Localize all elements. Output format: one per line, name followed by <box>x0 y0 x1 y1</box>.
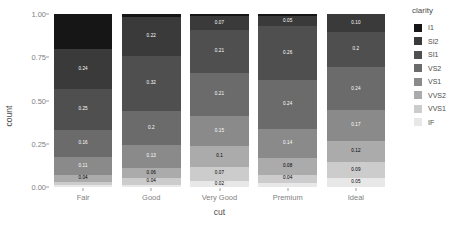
legend-item-vs1[interactable]: VS1 <box>398 75 460 89</box>
bar-segment-si2[interactable]: 0.07 <box>190 16 249 30</box>
x-tick-label: Good <box>142 193 160 202</box>
segment-value-label: 0.1 <box>216 154 223 159</box>
bar-segment-vvs1[interactable]: 0.09 <box>327 162 386 178</box>
legend-label: VVS2 <box>428 92 446 99</box>
bar-segment-if[interactable]: 0.05 <box>327 178 386 187</box>
x-tick-mark <box>219 188 220 191</box>
bar-segment-si2[interactable]: 0.22 <box>122 17 181 55</box>
bar-segment-vvs1[interactable]: 0.07 <box>190 167 249 181</box>
bar-segment-si2[interactable]: 0.10 <box>327 14 386 32</box>
segment-value-label: 0.32 <box>147 81 156 86</box>
segment-value-label: 0.09 <box>351 168 360 173</box>
x-tick-mark <box>83 188 84 191</box>
legend-label: VS2 <box>428 65 441 72</box>
segment-value-label: 0.25 <box>78 107 87 112</box>
segment-value-label: 0.21 <box>215 92 224 97</box>
bar-segment-vs1[interactable]: 0.13 <box>122 145 181 167</box>
x-tick-mark <box>151 188 152 191</box>
legend-label: VS1 <box>428 78 441 85</box>
bar-segment-si1[interactable]: 0.26 <box>258 26 317 80</box>
segment-value-label: 0.21 <box>215 49 224 54</box>
legend-swatch-icon <box>414 64 422 72</box>
x-tick-label: Ideal <box>348 193 364 202</box>
bar-segment-si1[interactable]: 0.21 <box>190 30 249 73</box>
bar-segment-si1[interactable]: 0.2 <box>327 32 386 68</box>
segment-value-label: 0.15 <box>215 129 224 134</box>
bar-segment-vvs1[interactable]: 0.04 <box>122 178 181 185</box>
y-axis-title-text: count <box>4 105 14 126</box>
legend-item-vs2[interactable]: VS2 <box>398 62 460 76</box>
bar-segment-vs2[interactable]: 0.2 <box>122 111 181 146</box>
bar-segment-vvs2[interactable]: 0.1 <box>190 146 249 166</box>
bar-ideal[interactable]: 0.100.20.240.170.120.090.05 <box>327 14 386 187</box>
legend-item-si1[interactable]: SI1 <box>398 48 460 62</box>
segment-value-label: 0.05 <box>283 19 292 24</box>
segment-value-label: 0.06 <box>147 171 156 176</box>
legend-swatch-icon <box>414 91 422 99</box>
legend-label: SI2 <box>428 38 439 45</box>
x-tick-label: Very Good <box>202 193 237 202</box>
legend-item-si2[interactable]: SI2 <box>398 35 460 49</box>
bar-segment-si2[interactable]: 0.24 <box>54 49 113 89</box>
y-tick-label: 0.00 <box>31 183 46 192</box>
segment-value-label: 0.13 <box>147 154 156 159</box>
segment-value-label: 0.2 <box>148 126 155 131</box>
bar-segment-vvs2[interactable]: 0.06 <box>122 168 181 178</box>
legend-swatch-icon <box>414 51 422 59</box>
legend-items: I1SI2SI1VS2VS1VVS2VVS1IF <box>398 21 460 129</box>
legend-swatch-icon <box>414 78 422 86</box>
bar-segment-vvs2[interactable]: 0.12 <box>327 141 386 162</box>
x-tick-label: Fair <box>77 193 90 202</box>
y-tick-label: 0.50 <box>31 96 46 105</box>
bar-segment-vs1[interactable]: 0.14 <box>258 129 317 158</box>
y-tick-label: 0.75 <box>31 53 46 62</box>
segment-value-label: 0.04 <box>147 179 156 184</box>
segment-value-label: 0.16 <box>78 141 87 146</box>
legend-item-i1[interactable]: I1 <box>398 21 460 35</box>
legend-label: VVS1 <box>428 105 446 112</box>
x-tick-mark <box>287 188 288 191</box>
x-tick-mark <box>355 188 356 191</box>
legend-label: SI1 <box>428 51 439 58</box>
bar-segment-si1[interactable]: 0.25 <box>54 89 113 131</box>
bar-premium[interactable]: 0.050.260.240.140.080.04 <box>258 14 317 187</box>
bar-segment-vs1[interactable]: 0.15 <box>190 116 249 147</box>
bar-segment-if[interactable]: 0.02 <box>190 181 249 187</box>
segment-value-label: 0.17 <box>351 123 360 128</box>
plot-panel: 0.240.250.160.110.040.220.320.20.130.060… <box>49 14 390 187</box>
x-tick-label: Premium <box>273 193 303 202</box>
bar-segment-vs2[interactable]: 0.24 <box>258 80 317 129</box>
bar-segment-si1[interactable]: 0.32 <box>122 56 181 111</box>
segment-value-label: 0.11 <box>79 164 88 169</box>
segment-value-label: 0.22 <box>147 34 156 39</box>
bar-segment-vvs2[interactable]: 0.08 <box>258 158 317 174</box>
segment-value-label: 0.10 <box>351 21 360 26</box>
bar-segment-si2[interactable]: 0.05 <box>258 16 317 26</box>
x-axis-title: cut <box>49 207 390 217</box>
bar-fair[interactable]: 0.240.250.160.110.04 <box>54 14 113 187</box>
bar-segment-i1[interactable] <box>54 14 113 49</box>
bar-segment-vs1[interactable]: 0.17 <box>327 110 386 140</box>
bar-segment-vs2[interactable]: 0.21 <box>190 73 249 116</box>
segment-value-label: 0.2 <box>353 47 360 52</box>
bar-segment-if[interactable] <box>122 185 181 187</box>
legend-label: IF <box>428 119 434 126</box>
bar-segment-vs2[interactable]: 0.24 <box>327 67 386 110</box>
bar-segment-vs2[interactable]: 0.16 <box>54 130 113 157</box>
bar-good[interactable]: 0.220.320.20.130.060.04 <box>122 14 181 187</box>
segment-value-label: 0.05 <box>351 180 360 185</box>
bar-segment-vvs2[interactable]: 0.04 <box>54 175 113 182</box>
bar-segment-vvs1[interactable]: 0.04 <box>258 175 317 183</box>
legend-item-vvs1[interactable]: VVS1 <box>398 102 460 116</box>
legend-label: I1 <box>428 24 434 31</box>
segment-value-label: 0.24 <box>78 67 87 72</box>
y-axis-ticks: 0.000.250.500.751.00 <box>14 0 46 231</box>
bar-segment-if[interactable] <box>258 183 317 187</box>
legend-item-vvs2[interactable]: VVS2 <box>398 89 460 103</box>
legend-item-if[interactable]: IF <box>398 116 460 130</box>
bar-segment-vs1[interactable]: 0.11 <box>54 157 113 175</box>
segment-value-label: 0.07 <box>215 171 224 176</box>
segment-value-label: 0.04 <box>78 176 87 181</box>
bar-segment-if[interactable] <box>54 185 113 187</box>
bar-very-good[interactable]: 0.070.210.210.150.10.070.02 <box>190 14 249 187</box>
